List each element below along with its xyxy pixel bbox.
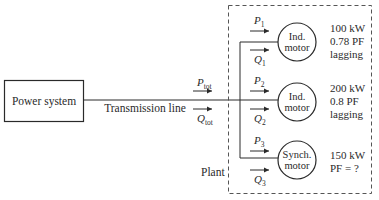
load-2-spec-2: 0.8 PF [330,95,359,107]
motor-2-line2: motor [284,102,310,113]
plant-label: Plant [201,166,225,178]
q1-label: Q1 [254,53,266,68]
p3-label: P3 [253,134,265,149]
transmission-line-label: Transmission line [104,102,186,114]
motor-2-line1: Ind. [289,91,306,102]
q-tot-label: Qtot [197,112,214,127]
power-system-label: Power system [12,95,76,108]
load-3-spec-2: PF = ? [330,162,359,174]
q3-label: Q3 [254,173,266,188]
q2-label: Q2 [254,112,266,127]
load-1-spec-3: lagging [330,48,363,60]
motor-1-line2: motor [284,42,310,53]
load-2-spec-1: 200 kW [330,82,366,94]
p2-label: P2 [253,74,265,89]
load-1-spec-2: 0.78 PF [330,35,364,47]
p1-label: P1 [253,14,265,29]
load-2-spec-3: lagging [330,108,363,120]
power-diagram: Power system Transmission line Ptot Qtot… [0,0,379,200]
load-1-spec-1: 100 kW [330,22,366,34]
motor-3-line2: motor [284,160,310,171]
p-tot-label: Ptot [196,76,213,91]
motor-1-line1: Ind. [289,31,306,42]
motor-3-line1: Synch. [283,149,312,160]
load-3-spec-1: 150 kW [330,149,366,161]
